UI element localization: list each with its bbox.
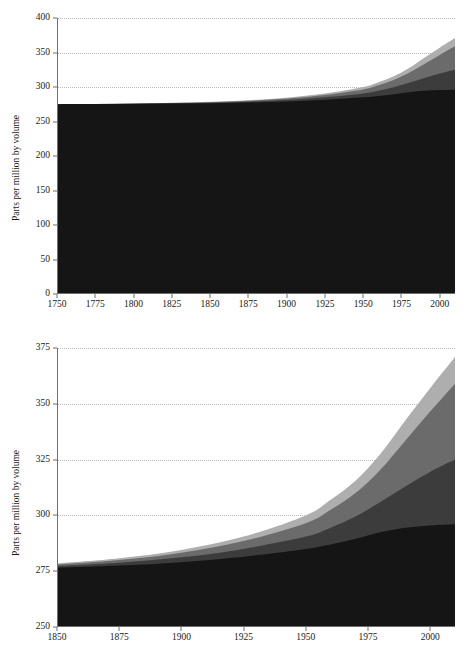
panel-top-y-axis-label: Parts per million by volume (11, 108, 21, 228)
y-tick-mark-275 (53, 571, 57, 572)
x-tick-label-1825: 1825 (162, 300, 181, 310)
panel-bottom-y-axis-label: Parts per million by volume (11, 443, 21, 563)
x-tick-label-1975: 1975 (392, 300, 411, 310)
panel-bottom: Parts per million by volume 250275300325… (0, 335, 467, 670)
x-tick-mark-1950 (305, 627, 306, 631)
x-tick-mark-1850 (210, 294, 211, 298)
x-tick-label-1925: 1925 (315, 300, 334, 310)
x-tick-mark-1875 (248, 294, 249, 298)
y-tick-mark-300 (53, 87, 57, 88)
panel-bottom-x-axis-line (57, 626, 455, 627)
x-tick-mark-1975 (401, 294, 402, 298)
y-tick-mark-150 (53, 190, 57, 191)
x-tick-mark-2000 (439, 294, 440, 298)
x-tick-label-1750: 1750 (48, 300, 67, 310)
panel-top: Parts per million by volume 050100150200… (0, 0, 467, 335)
x-tick-label-1775: 1775 (86, 300, 105, 310)
x-tick-mark-1750 (57, 294, 58, 298)
panel-bottom-y-axis-line (57, 348, 58, 627)
x-tick-label-1900: 1900 (172, 633, 191, 643)
y-tick-mark-300 (53, 515, 57, 516)
x-tick-mark-1800 (133, 294, 134, 298)
y-tick-mark-200 (53, 156, 57, 157)
y-tick-mark-100 (53, 225, 57, 226)
x-tick-mark-1925 (324, 294, 325, 298)
y-tick-mark-350 (53, 403, 57, 404)
x-tick-mark-1850 (57, 627, 58, 631)
y-tick-mark-50 (53, 259, 57, 260)
x-tick-mark-1825 (171, 294, 172, 298)
y-tick-mark-400 (53, 18, 57, 19)
y-tick-mark-250 (53, 121, 57, 122)
panel-top-y-axis-line (57, 18, 58, 294)
panel-top-plot-area: 0501001502002503003504001750177518001825… (57, 18, 455, 294)
x-tick-label-1900: 1900 (277, 300, 296, 310)
panel-bottom-area-chart (57, 348, 455, 627)
x-tick-mark-1775 (95, 294, 96, 298)
x-tick-mark-1900 (181, 627, 182, 631)
x-tick-label-1875: 1875 (110, 633, 129, 643)
y-tick-mark-325 (53, 459, 57, 460)
x-tick-mark-1950 (363, 294, 364, 298)
x-tick-label-1950: 1950 (296, 633, 315, 643)
x-tick-label-1850: 1850 (48, 633, 67, 643)
x-tick-label-1875: 1875 (239, 300, 258, 310)
x-tick-label-1925: 1925 (234, 633, 253, 643)
area-band-band1 (57, 90, 455, 294)
x-tick-label-1850: 1850 (201, 300, 220, 310)
x-tick-mark-1875 (119, 627, 120, 631)
x-tick-label-2000: 2000 (421, 633, 440, 643)
x-tick-mark-1925 (243, 627, 244, 631)
panel-top-area-chart (57, 18, 455, 294)
panel-top-x-axis-line (57, 293, 455, 294)
figure-root: Parts per million by volume 050100150200… (0, 0, 467, 670)
y-tick-mark-350 (53, 52, 57, 53)
x-tick-label-2000: 2000 (430, 300, 449, 310)
x-tick-mark-1975 (367, 627, 368, 631)
x-tick-label-1800: 1800 (124, 300, 143, 310)
x-tick-label-1975: 1975 (358, 633, 377, 643)
x-tick-label-1950: 1950 (354, 300, 373, 310)
x-tick-mark-1900 (286, 294, 287, 298)
panel-bottom-plot-area: 2502753003253503751850187519001925195019… (57, 348, 455, 627)
x-tick-mark-2000 (430, 627, 431, 631)
y-tick-mark-375 (53, 348, 57, 349)
